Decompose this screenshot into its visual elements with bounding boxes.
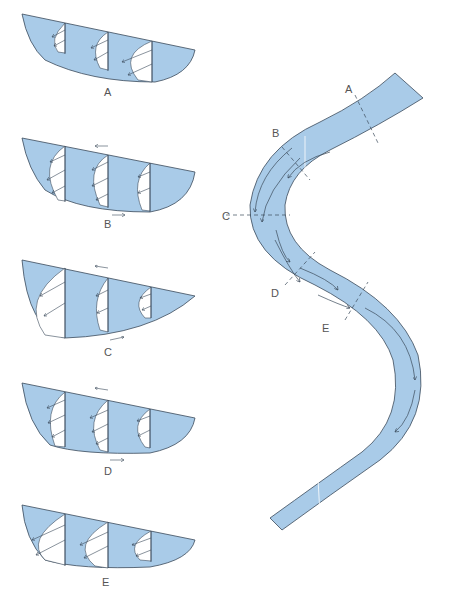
cross-section-e: E [22,505,195,588]
map-label-d: D [271,287,279,299]
section-label-c: C [104,346,112,358]
section-label-e: E [102,576,109,588]
section-label-d: D [104,465,112,477]
meander-diagram: A B C [0,0,455,597]
section-label-b: B [104,218,111,230]
cross-section-c: C [22,260,195,358]
map-label-c: C [222,210,230,222]
cross-section-d: D [22,383,195,477]
map-label-e: E [322,322,329,334]
map-label-a: A [345,83,353,95]
map-label-b: B [272,127,279,139]
meander-channel: A B C D E [222,73,423,530]
cross-section-a: A [22,14,195,98]
cross-section-b: B [22,138,195,230]
section-label-a: A [104,86,112,98]
